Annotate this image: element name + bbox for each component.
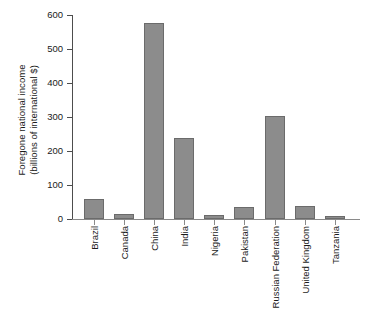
y-axis-tick-label: 300	[47, 111, 63, 122]
bar-india	[174, 138, 194, 219]
bar-brazil	[84, 199, 104, 219]
y-axis-tick: 500	[67, 49, 72, 50]
y-axis-tick-label: 600	[47, 9, 63, 20]
bar-chart-figure: Foregone national income (billions of in…	[0, 0, 372, 334]
y-axis-title-line-2: (billions of international $)	[28, 64, 40, 175]
bar-tanzania	[325, 216, 345, 219]
x-axis-tick	[154, 220, 155, 225]
y-axis-title-text: Foregone national income (billions of in…	[16, 64, 40, 175]
x-axis-label-slot: China	[147, 226, 161, 326]
y-axis-tick: 0	[67, 219, 72, 220]
x-axis-label-slot: Canada	[117, 226, 131, 326]
x-axis-label-pakistan: Pakistan	[239, 226, 250, 262]
bar-pakistan	[234, 207, 254, 219]
y-axis-tick: 600	[67, 15, 72, 16]
x-axis-tick	[244, 220, 245, 225]
y-axis-tick: 100	[67, 185, 72, 186]
x-axis-label-united-kingdom: United Kingdom	[299, 226, 310, 294]
y-axis-tick-label: 200	[47, 145, 63, 156]
y-axis-tick: 200	[67, 151, 72, 152]
x-axis-label-china: China	[149, 226, 160, 251]
x-axis-label-slot: Russian Federation	[268, 226, 282, 326]
x-axis-label-india: India	[179, 226, 190, 247]
x-axis-label-brazil: Brazil	[88, 226, 99, 250]
x-axis-tick	[335, 220, 336, 225]
x-axis-tick	[94, 220, 95, 225]
y-axis-tick: 300	[67, 117, 72, 118]
x-axis-label-slot: United Kingdom	[298, 226, 312, 326]
x-axis-label-russian-federation: Russian Federation	[269, 226, 280, 308]
plot-area: 0100200300400500600	[72, 15, 360, 220]
y-axis-tick-label: 100	[47, 179, 63, 190]
y-axis-title: Foregone national income (billions of in…	[10, 18, 46, 222]
x-axis-line	[72, 219, 360, 220]
bar-canada	[114, 214, 134, 219]
x-axis-tick	[214, 220, 215, 225]
x-axis-category-labels: BrazilCanadaChinaIndiaNigeriaPakistanRus…	[72, 226, 360, 331]
x-axis-tick	[124, 220, 125, 225]
bar-russian-federation	[265, 116, 285, 219]
x-axis-label-tanzania: Tanzania	[329, 226, 340, 264]
x-axis-label-nigeria: Nigeria	[209, 226, 220, 256]
y-axis-title-line-1: Foregone national income	[16, 64, 28, 175]
y-axis-line	[72, 15, 73, 220]
x-axis-label-slot: Nigeria	[207, 226, 221, 326]
bar-united-kingdom	[295, 206, 315, 219]
x-axis-label-slot: Pakistan	[237, 226, 251, 326]
x-axis-label-slot: India	[177, 226, 191, 326]
y-axis-tick: 400	[67, 83, 72, 84]
bar-nigeria	[204, 215, 224, 219]
x-axis-tick	[305, 220, 306, 225]
x-axis-label-slot: Brazil	[87, 226, 101, 326]
y-axis-tick-label: 0	[58, 213, 63, 224]
y-axis-tick-label: 400	[47, 77, 63, 88]
y-axis-tick-label: 500	[47, 43, 63, 54]
bar-china	[144, 23, 164, 219]
x-axis-label-slot: Tanzania	[328, 226, 342, 326]
x-axis-tick	[275, 220, 276, 225]
x-axis-tick	[184, 220, 185, 225]
x-axis-label-canada: Canada	[118, 226, 129, 259]
